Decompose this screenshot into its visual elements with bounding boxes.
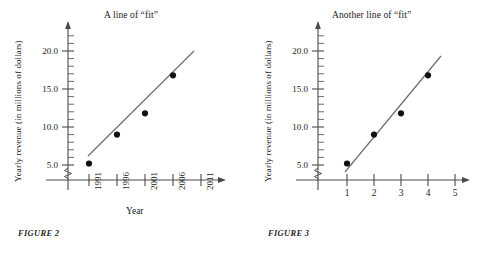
data-point [86,160,92,166]
figure-panel-3: Another line of “fit” Yearly revenue (in… [250,0,500,255]
x-axis-figure-3 [296,177,470,183]
data-point [142,110,148,116]
x-axis-figure-2 [46,177,226,183]
data-point [344,160,350,166]
y-tick-label: 10.0 [278,122,308,132]
x-tick-label: 2011 [205,172,215,190]
chart-title-figure-2: A line of “fit” [104,10,158,20]
figure-panel-2: A line of “fit” Yearly revenue (in milli… [0,0,250,255]
data-point [114,132,120,138]
y-axis-label-figure-2: Yearly revenue (in millions of dollars) [13,40,23,182]
data-point [371,132,377,138]
x-tick-label: 1 [339,188,355,198]
data-points-figure-3 [344,72,431,166]
x-tick-label: 1996 [121,172,131,190]
figure-caption-3: FIGURE 3 [268,228,309,238]
y-tick-label: 20.0 [278,46,308,56]
data-point [425,72,431,78]
y-tick-label: 5.0 [28,160,58,170]
x-tick-label: 2001 [149,172,159,190]
y-minor-ticks-figure-3 [318,36,324,158]
x-axis-label-figure-2: Year [126,206,144,216]
y-tick-label: 5.0 [278,160,308,170]
y-tick-label: 20.0 [28,46,58,56]
y-axis-label-figure-3: Yearly revenue (in millions of dollars) [263,40,273,182]
data-points-figure-2 [86,72,176,166]
y-tick-label: 10.0 [28,122,58,132]
chart-title-figure-3: Another line of “fit” [332,10,411,20]
x-tick-label: 5 [447,188,463,198]
data-point [398,110,404,116]
y-minor-ticks-figure-2 [68,36,74,158]
y-tick-label: 15.0 [28,84,58,94]
x-tick-label: 4 [420,188,436,198]
x-tick-label: 3 [393,188,409,198]
x-tick-label: 2006 [177,172,187,190]
x-tick-label: 1991 [93,172,103,190]
x-tick-label: 2 [366,188,382,198]
y-tick-label: 15.0 [278,84,308,94]
data-point [170,72,176,78]
figure-caption-2: FIGURE 2 [18,228,59,238]
fit-line-figure-2 [88,51,194,156]
